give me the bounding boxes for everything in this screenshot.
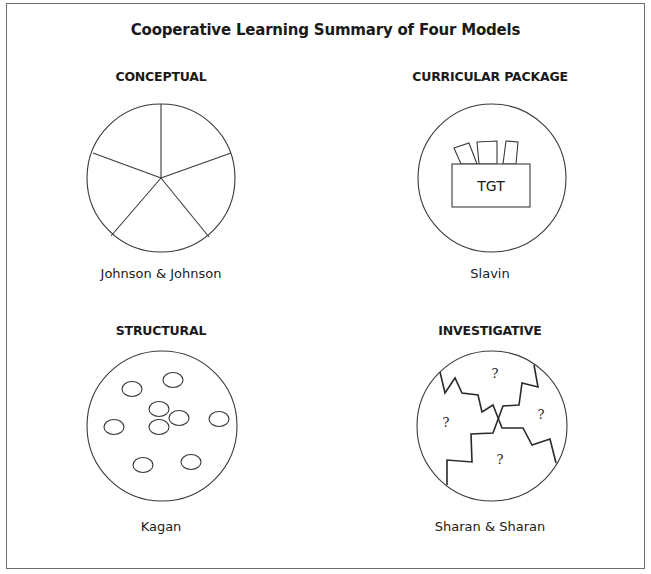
conceptual-pie-icon <box>87 104 235 252</box>
tgt-label: TGT <box>476 178 505 194</box>
question-mark-bottom: ? <box>497 452 504 467</box>
structural-ovals-icon <box>87 351 237 501</box>
question-mark-right: ? <box>538 407 545 422</box>
question-mark-left: ? <box>443 415 450 430</box>
question-mark-top: ? <box>492 366 499 381</box>
